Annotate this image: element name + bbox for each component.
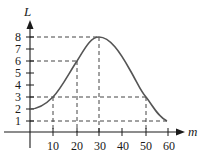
x-axis-arrow-icon bbox=[176, 129, 185, 136]
y-tick-labels: 8 7 6 5 4 3 2 1 bbox=[15, 30, 21, 128]
svg-text:60: 60 bbox=[163, 139, 175, 153]
x-axis-title: m bbox=[188, 124, 197, 139]
line-chart: 8 7 6 5 4 3 2 1 10 20 30 40 50 60 L m bbox=[0, 0, 203, 158]
svg-text:1: 1 bbox=[15, 114, 21, 128]
y-axis-arrow-icon bbox=[27, 20, 34, 29]
svg-text:40: 40 bbox=[117, 139, 129, 153]
guide-lines bbox=[30, 37, 167, 132]
svg-text:10: 10 bbox=[47, 139, 59, 153]
svg-text:50: 50 bbox=[140, 139, 152, 153]
svg-text:20: 20 bbox=[71, 139, 83, 153]
y-axis-title: L bbox=[23, 4, 31, 19]
axes bbox=[4, 26, 178, 148]
x-tick-labels: 10 20 30 40 50 60 bbox=[47, 139, 175, 153]
svg-text:30: 30 bbox=[94, 139, 106, 153]
